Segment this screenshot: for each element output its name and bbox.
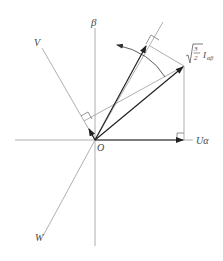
w-axis xyxy=(43,140,95,236)
projection-to-rotated xyxy=(150,46,184,66)
w-label: W xyxy=(35,232,45,243)
vector-current xyxy=(95,67,183,140)
vector-diagram: β V W O Uα 3 2 I αβ xyxy=(0,0,223,261)
current-magnitude-label: 3 2 I αβ xyxy=(186,44,213,63)
v-label: V xyxy=(34,37,42,48)
right-angle-mark-alpha xyxy=(177,133,184,140)
sqrt-numerator: 3 xyxy=(193,45,198,53)
current-subscript: αβ xyxy=(207,55,213,61)
beta-label: β xyxy=(90,16,97,28)
projection-to-v xyxy=(84,66,184,121)
sqrt-denominator: 2 xyxy=(194,54,198,62)
origin-label: O xyxy=(97,142,104,153)
v-axis xyxy=(42,48,95,140)
rotation-arc-icon xyxy=(117,45,165,77)
vector-rotated-projection xyxy=(95,46,146,140)
u-alpha-label: Uα xyxy=(196,135,209,146)
vector-v-projection xyxy=(89,129,95,140)
